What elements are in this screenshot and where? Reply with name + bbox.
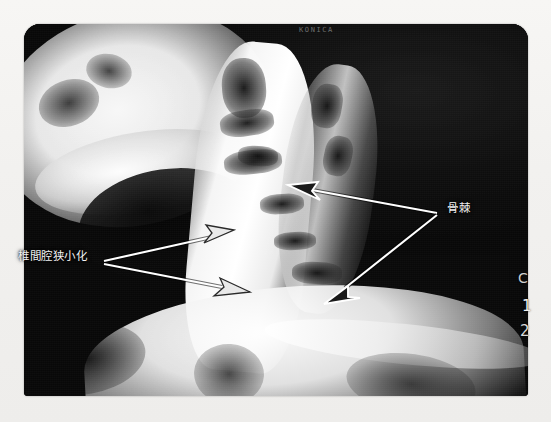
screenshot-root: 椎間腔狭小化 骨棘 KONICA C 1 2 <box>0 0 551 422</box>
annotation-label-disc-narrowing: 椎間腔狭小化 <box>18 251 87 263</box>
edge-marker-c: C <box>518 270 528 286</box>
annotation-label-osteophyte: 骨棘 <box>447 203 470 215</box>
edge-marker-1: 1 <box>522 297 532 315</box>
film-manufacturer-imprint: KONICA <box>299 26 334 34</box>
edge-marker-2: 2 <box>520 322 530 340</box>
